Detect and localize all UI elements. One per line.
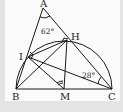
label-A: A	[39, 0, 48, 9]
label-I: I	[19, 51, 23, 62]
angle-label-C: 28°	[82, 71, 96, 80]
angle-arc-A	[40, 16, 50, 18]
angle-arc-M-2	[58, 83, 63, 85]
angle-arc-C	[98, 77, 101, 84]
label-M: M	[60, 91, 70, 102]
segment-IC	[28, 57, 112, 89]
angle-label-A: 62°	[41, 27, 55, 36]
label-H: H	[71, 31, 80, 42]
segment-IH	[28, 40, 67, 57]
segment-AC	[43, 8, 112, 89]
geometry-diagram: A H I B M C 62° 28°	[0, 0, 123, 112]
label-C: C	[108, 91, 116, 102]
label-B: B	[12, 91, 19, 102]
segment-HM	[64, 40, 67, 89]
